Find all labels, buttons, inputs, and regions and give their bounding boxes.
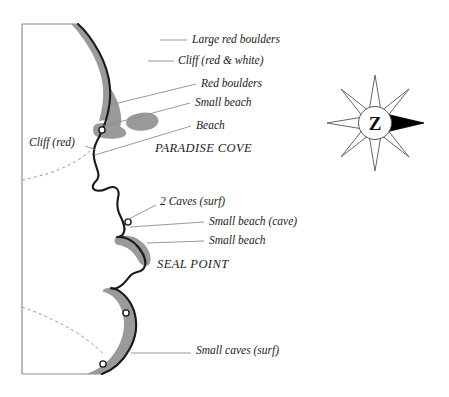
contour-lines-group [22,145,104,355]
paradise-beach-shading [93,123,126,139]
label-seal-point: SEAL POINT [157,258,229,271]
label-small-caves-surf: Small caves (surf) [196,345,279,357]
leader-two-caves-surf [127,205,156,220]
coastal-shading-group [71,24,158,374]
label-small-beach-cave: Small beach (cave) [209,216,297,228]
leader-small-beach-cave [130,222,204,227]
label-cliff-red-white: Cliff (red & white) [178,55,264,67]
cave-marker-paradise [99,127,105,133]
leader-small-beach-lower [147,241,204,243]
label-cliff-red: Cliff (red) [29,137,75,149]
label-large-red-boulders: Large red boulders [192,34,280,46]
detached-beach-shading [126,113,158,131]
map-frame [22,24,103,374]
label-beach: Beach [196,120,225,132]
leader-red-boulders [110,84,196,105]
coastline [78,24,145,374]
label-paradise-cove: PARADISE COVE [155,142,252,155]
cave-marker-lower-b [100,361,106,367]
label-small-beach-lower: Small beach [209,235,266,247]
map-canvas: Large red boulders Cliff (red & white) R… [0,0,449,397]
contour-line-upper [22,145,95,180]
contour-line-lower [22,307,104,355]
cave-marker-lower-a [123,310,129,316]
label-small-beach-upper: Small beach [195,97,252,109]
label-red-boulders: Red boulders [201,78,262,90]
compass-letter-z: Z [360,113,390,135]
label-two-caves-surf: 2 Caves (surf) [160,196,225,208]
